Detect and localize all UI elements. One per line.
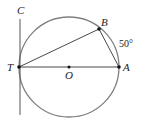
label-a: A [122,61,130,73]
point-a [117,65,121,69]
geometry-diagram: C B T A O 50° [0,0,142,122]
label-b: B [101,16,108,28]
arc-measure-label: 50° [119,38,133,49]
label-t: T [7,61,14,73]
label-o: O [65,69,73,81]
point-t [17,65,21,69]
chord-ba [99,29,119,67]
label-c: C [17,4,25,16]
